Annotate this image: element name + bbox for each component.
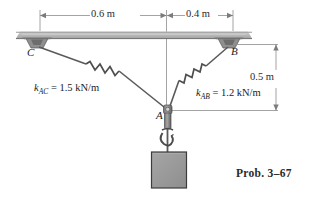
point-label-a: A <box>156 110 163 121</box>
lifting-hook <box>161 129 174 153</box>
dimension-label-vertical: 0.5 m <box>250 72 274 83</box>
spring-label-ac: kAC = 1.5 kN/m <box>34 83 99 96</box>
problem-figure: 0.6 m 0.4 m 0.5 m C B A kAC = 1.5 kN/m k… <box>0 0 317 197</box>
cable-segment-ac <box>39 47 164 107</box>
spring-value-ab: 1.2 kN/m <box>221 87 261 98</box>
dimension-label-right: 0.4 m <box>186 9 210 20</box>
spring-label-ab: kAB = 1.2 kN/m <box>196 88 261 101</box>
problem-caption: Prob. 3–67 <box>236 168 292 180</box>
spring-subscript-ab: AB <box>201 92 210 101</box>
wall-mount-bracket-b <box>214 37 244 48</box>
spring-subscript-ac: AC <box>39 87 49 96</box>
point-label-c: C <box>27 47 34 58</box>
dimension-label-left: 0.6 m <box>91 9 115 20</box>
point-label-b: B <box>231 46 238 57</box>
suspended-block <box>152 152 187 188</box>
spring-equals-ab: = <box>212 87 218 98</box>
connector-ring-a <box>164 105 173 129</box>
spring-value-ac: 1.5 kN/m <box>59 82 99 93</box>
spring-equals-ac: = <box>51 82 57 93</box>
dimension-line-left <box>40 10 167 112</box>
